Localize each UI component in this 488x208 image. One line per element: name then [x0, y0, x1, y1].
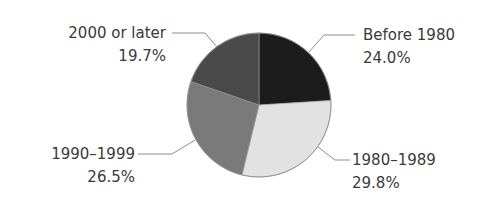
pct-before-1980: 24.0% — [363, 49, 411, 67]
pie-slice-before-1980 — [259, 33, 331, 105]
label-1990-1999: 1990–1999 — [51, 145, 135, 163]
leader-line-1990-1999 — [138, 140, 195, 154]
leader-line-2000-or-later — [172, 33, 217, 47]
leader-line-before-1980 — [309, 35, 355, 52]
pct-1990-1999: 26.5% — [87, 168, 135, 186]
label-1980-1989: 1980–1989 — [352, 151, 436, 169]
label-before-1980: Before 1980 — [363, 26, 455, 44]
label-2000-or-later: 2000 or later — [68, 24, 167, 42]
pct-2000-or-later: 19.7% — [118, 47, 166, 65]
pct-1980-1989: 29.8% — [352, 174, 400, 192]
pie-chart: 2000 or later 19.7% Before 1980 24.0% 19… — [0, 0, 488, 208]
pie-slices — [187, 33, 331, 177]
leader-line-1980-1989 — [318, 147, 350, 160]
